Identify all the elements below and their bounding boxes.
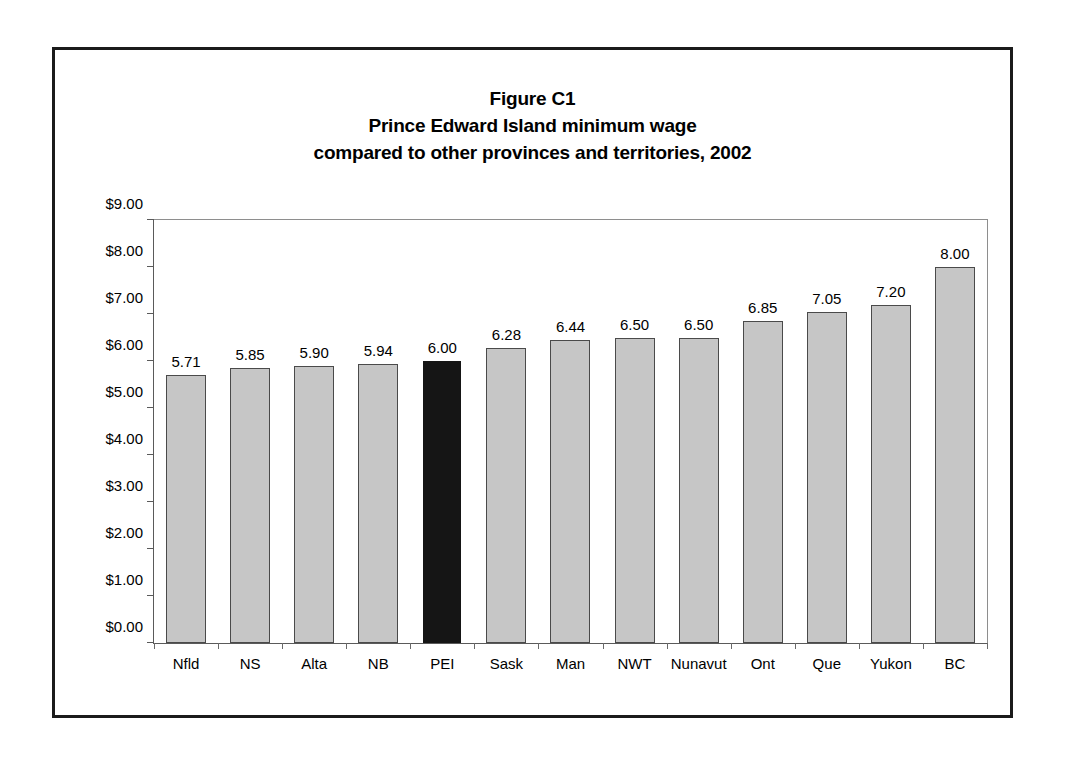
x-axis-category-label: Ont bbox=[751, 655, 775, 672]
chart-title-line-2: Prince Edward Island minimum wage bbox=[55, 112, 1010, 139]
x-axis-tick bbox=[218, 643, 219, 649]
bar-group: 6.28Sask bbox=[474, 220, 538, 643]
bar-value-label: 5.71 bbox=[171, 353, 200, 370]
bar-group: 5.94NB bbox=[346, 220, 410, 643]
y-axis-label: $1.00 bbox=[105, 571, 143, 588]
bar-group: 6.00PEI bbox=[410, 220, 474, 643]
figure-page: Figure C1 Prince Edward Island minimum w… bbox=[0, 0, 1066, 758]
figure-frame: Figure C1 Prince Edward Island minimum w… bbox=[52, 47, 1013, 718]
bar-value-label: 6.50 bbox=[620, 316, 649, 333]
bar-group: 7.20Yukon bbox=[859, 220, 923, 643]
x-axis-tick bbox=[346, 643, 347, 649]
bar bbox=[358, 364, 398, 643]
bar-group: 6.85Ont bbox=[731, 220, 795, 643]
y-axis-tick bbox=[147, 219, 154, 220]
x-axis-tick bbox=[859, 643, 860, 649]
bar-group: 6.50NWT bbox=[603, 220, 667, 643]
y-axis-label: $6.00 bbox=[105, 336, 143, 353]
y-axis-label: $7.00 bbox=[105, 289, 143, 306]
chart-title-line-1: Figure C1 bbox=[55, 85, 1010, 112]
y-axis-tick bbox=[147, 501, 154, 502]
y-axis-label: $8.00 bbox=[105, 242, 143, 259]
bar-group: 5.90Alta bbox=[282, 220, 346, 643]
y-axis-label: $3.00 bbox=[105, 477, 143, 494]
x-axis-tick bbox=[410, 643, 411, 649]
x-axis-tick bbox=[731, 643, 732, 649]
bar-value-label: 6.85 bbox=[748, 299, 777, 316]
bar-value-label: 5.85 bbox=[235, 346, 264, 363]
x-axis-category-label: Alta bbox=[301, 655, 327, 672]
bar-value-label: 7.05 bbox=[812, 290, 841, 307]
bar-value-label: 6.00 bbox=[428, 339, 457, 356]
bar bbox=[615, 338, 655, 644]
bar-value-label: 6.50 bbox=[684, 316, 713, 333]
x-axis-category-label: NWT bbox=[617, 655, 651, 672]
chart-title-line-3: compared to other provinces and territor… bbox=[55, 139, 1010, 166]
bar bbox=[743, 321, 783, 643]
bar-highlighted bbox=[423, 361, 461, 643]
x-axis-category-label: BC bbox=[945, 655, 966, 672]
bar bbox=[294, 366, 334, 643]
y-axis-tick bbox=[147, 407, 154, 408]
x-axis-tick bbox=[667, 643, 668, 649]
bar bbox=[807, 312, 847, 643]
plot-area: $0.00$1.00$2.00$3.00$4.00$5.00$6.00$7.00… bbox=[153, 219, 988, 644]
bar bbox=[230, 368, 270, 643]
x-axis-tick bbox=[474, 643, 475, 649]
bar-value-label: 7.20 bbox=[876, 283, 905, 300]
bar-value-label: 6.28 bbox=[492, 326, 521, 343]
x-axis-category-label: Sask bbox=[490, 655, 523, 672]
x-axis-tick bbox=[282, 643, 283, 649]
bar-value-label: 6.44 bbox=[556, 318, 585, 335]
bar-group: 6.50Nunavut bbox=[667, 220, 731, 643]
bar bbox=[550, 340, 590, 643]
bar bbox=[871, 305, 911, 643]
bar bbox=[935, 267, 975, 643]
y-axis-tick bbox=[147, 266, 154, 267]
x-axis-tick bbox=[538, 643, 539, 649]
x-axis-category-label: Que bbox=[813, 655, 841, 672]
x-axis-category-label: Nfld bbox=[173, 655, 200, 672]
bar-group: 6.44Man bbox=[538, 220, 602, 643]
bar-group: 5.85NS bbox=[218, 220, 282, 643]
bar-value-label: 5.94 bbox=[364, 342, 393, 359]
x-axis-category-label: Nunavut bbox=[671, 655, 727, 672]
x-axis-category-label: NS bbox=[240, 655, 261, 672]
x-axis-tick bbox=[987, 643, 988, 649]
chart-title: Figure C1 Prince Edward Island minimum w… bbox=[55, 85, 1010, 166]
y-axis-tick bbox=[147, 642, 154, 643]
x-axis-category-label: Man bbox=[556, 655, 585, 672]
bar-group: 7.05Que bbox=[795, 220, 859, 643]
bar-value-label: 5.90 bbox=[300, 344, 329, 361]
x-axis-tick bbox=[154, 643, 155, 649]
x-axis-category-label: PEI bbox=[430, 655, 454, 672]
x-axis-tick bbox=[795, 643, 796, 649]
bar-group: 5.71Nfld bbox=[154, 220, 218, 643]
bar bbox=[679, 338, 719, 644]
y-axis-label: $9.00 bbox=[105, 195, 143, 212]
y-axis-label: $2.00 bbox=[105, 524, 143, 541]
x-axis-category-label: Yukon bbox=[870, 655, 912, 672]
y-axis-tick bbox=[147, 595, 154, 596]
bar bbox=[166, 375, 206, 643]
y-axis-tick bbox=[147, 454, 154, 455]
bar-group: 8.00BC bbox=[923, 220, 987, 643]
bar bbox=[486, 348, 526, 643]
y-axis-label: $4.00 bbox=[105, 430, 143, 447]
x-axis-tick bbox=[923, 643, 924, 649]
y-axis-tick bbox=[147, 313, 154, 314]
x-axis-tick bbox=[603, 643, 604, 649]
bar-value-label: 8.00 bbox=[940, 245, 969, 262]
x-axis-category-label: NB bbox=[368, 655, 389, 672]
y-axis-tick bbox=[147, 360, 154, 361]
y-axis-label: $5.00 bbox=[105, 383, 143, 400]
y-axis-tick bbox=[147, 548, 154, 549]
y-axis-label: $0.00 bbox=[105, 618, 143, 635]
